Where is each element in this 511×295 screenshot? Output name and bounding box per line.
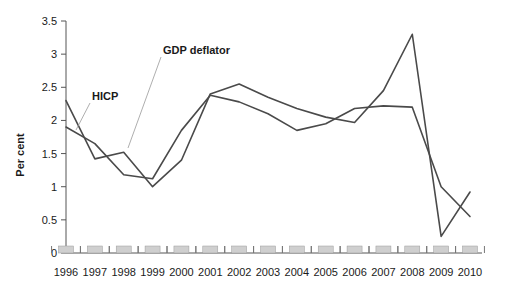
year-block: [318, 246, 333, 253]
y-tick-label: 0.5: [42, 214, 57, 226]
x-tick-label: 2006: [342, 266, 366, 278]
x-tick-label: 1998: [111, 266, 135, 278]
x-tick-label: 1999: [140, 266, 164, 278]
x-tick-label: 1997: [83, 266, 107, 278]
year-block: [145, 246, 160, 253]
x-tick-label: 2000: [169, 266, 193, 278]
series-lines: [66, 34, 470, 236]
line-chart: 00.511.522.533.5 19961997199819992000200…: [0, 0, 511, 295]
x-axis-year-blocks: [58, 246, 477, 253]
x-tick-label: 2010: [458, 266, 482, 278]
y-axis: 00.511.522.533.5: [42, 15, 66, 259]
year-block: [405, 246, 420, 253]
annotation-label-gdp-deflator: GDP deflator: [163, 44, 231, 56]
year-block: [232, 246, 247, 253]
year-block: [347, 246, 362, 253]
y-tick-label: 3.5: [42, 15, 57, 27]
x-tick-label: 2003: [256, 266, 280, 278]
y-tick-label: 2: [51, 114, 57, 126]
y-axis-title: Per cent: [14, 133, 26, 177]
year-block: [203, 246, 218, 253]
series-line-gdp-deflator: [66, 34, 470, 236]
year-block: [289, 246, 304, 253]
x-tick-label: 2009: [429, 266, 453, 278]
x-tick-label: 2008: [400, 266, 424, 278]
x-tick-label: 2002: [227, 266, 251, 278]
x-tick-label: 2001: [198, 266, 222, 278]
y-tick-label: 1.5: [42, 148, 57, 160]
year-block: [58, 246, 73, 253]
year-block: [434, 246, 449, 253]
x-tick-label: 2005: [313, 266, 337, 278]
x-tick-label: 2007: [371, 266, 395, 278]
y-tick-label: 2.5: [42, 81, 57, 93]
x-tick-label: 1996: [54, 266, 78, 278]
chart-container: 00.511.522.533.5 19961997199819992000200…: [0, 0, 511, 295]
series-annotations: HICPGDP deflator: [76, 44, 231, 148]
year-block: [174, 246, 189, 253]
y-tick-label: 1: [51, 181, 57, 193]
x-tick-label: 2004: [285, 266, 309, 278]
year-block: [260, 246, 275, 253]
annotation-leader-line: [76, 103, 90, 130]
annotation-label-hicp: HICP: [92, 90, 118, 102]
year-block: [376, 246, 391, 253]
y-tick-label: 3: [51, 48, 57, 60]
year-block: [462, 246, 477, 253]
year-block: [87, 246, 102, 253]
year-block: [116, 246, 131, 253]
annotation-leader-line: [128, 57, 161, 148]
